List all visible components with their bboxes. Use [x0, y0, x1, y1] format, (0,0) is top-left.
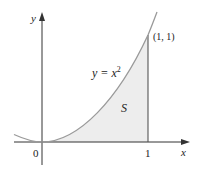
- curve-equation-lhs: y = x: [91, 66, 117, 80]
- region-s-fill: [42, 35, 148, 142]
- curve-equation-label: y = x2: [91, 65, 121, 80]
- region-s-label: S: [121, 101, 127, 115]
- y-axis-arrow-icon: [39, 12, 45, 21]
- origin-label: 0: [33, 147, 39, 159]
- area-under-parabola-diagram: y x 0 1 (1, 1) S y = x2: [0, 0, 197, 176]
- x-axis-arrow-icon: [181, 139, 190, 145]
- curve-equation-exponent: 2: [117, 65, 121, 74]
- y-axis-label: y: [30, 12, 36, 24]
- x-tick-label-1: 1: [145, 147, 151, 159]
- point-label: (1, 1): [153, 31, 175, 43]
- x-axis-label: x: [180, 146, 186, 158]
